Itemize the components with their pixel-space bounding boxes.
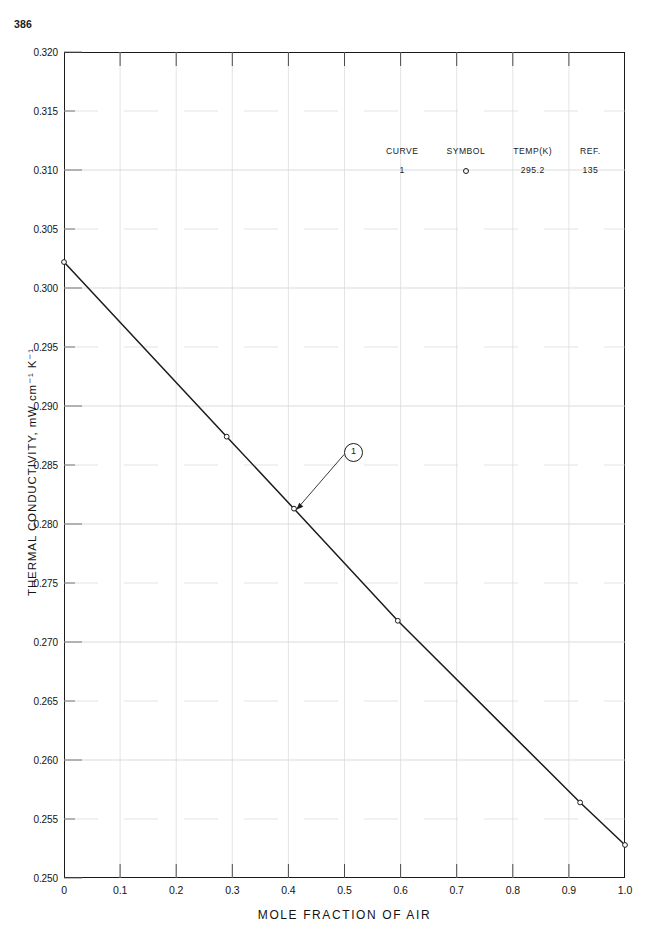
y-tick-label: 0.250 xyxy=(14,873,58,884)
x-tick-label: 0.7 xyxy=(437,884,477,896)
legend-header-symbol: SYMBOL xyxy=(432,146,499,165)
figure-thermal-conductivity: 0.2500.2550.2600.2650.2700.2750.2800.285… xyxy=(0,0,669,947)
legend-table: CURVE SYMBOL TEMP(K) REF. 1 295.2 135 xyxy=(372,146,615,175)
plot-area xyxy=(64,52,625,878)
y-axis-title: THERMAL CONDUCTIVITY, mW cm⁻¹ K⁻¹ xyxy=(25,272,39,672)
y-tick-label: 0.315 xyxy=(14,106,58,117)
legend-cell-ref: 135 xyxy=(566,165,615,175)
legend-header-curve: CURVE xyxy=(372,146,432,165)
y-tick-label: 0.320 xyxy=(14,47,58,58)
legend-header-temp: TEMP(K) xyxy=(499,146,566,165)
legend-header-ref: REF. xyxy=(566,146,615,165)
page-canvas: 386 0.2500.2550.2600.2650.2700.2750.2800… xyxy=(0,0,669,947)
x-axis-title: MOLE FRACTION OF AIR xyxy=(64,908,625,922)
x-tick-label: 0.9 xyxy=(549,884,589,896)
legend-cell-symbol xyxy=(432,165,499,175)
y-tick-label: 0.310 xyxy=(14,165,58,176)
data-marker xyxy=(395,618,400,623)
data-marker xyxy=(292,506,297,511)
annotation-leader-line xyxy=(296,454,344,509)
legend-row: 1 295.2 135 xyxy=(372,165,615,175)
x-tick-label: 0 xyxy=(44,884,84,896)
x-tick-label: 0.4 xyxy=(268,884,308,896)
x-tick-label: 0.2 xyxy=(156,884,196,896)
x-tick-label: 0.5 xyxy=(325,884,365,896)
x-tick-label: 0.6 xyxy=(381,884,421,896)
data-marker xyxy=(62,260,67,265)
curve-callout-1: 1 xyxy=(344,443,363,462)
legend-cell-curve: 1 xyxy=(372,165,432,175)
x-tick-label: 0.8 xyxy=(493,884,533,896)
x-axis-tick-labels: 00.10.20.30.40.50.60.70.80.91.0 xyxy=(64,884,625,900)
data-marker xyxy=(623,843,628,848)
x-tick-label: 0.3 xyxy=(212,884,252,896)
y-tick-label: 0.260 xyxy=(14,755,58,766)
x-tick-label: 1.0 xyxy=(605,884,645,896)
y-tick-label: 0.265 xyxy=(14,696,58,707)
data-marker xyxy=(578,800,583,805)
circle-open-icon xyxy=(463,168,469,174)
y-tick-label: 0.255 xyxy=(14,814,58,825)
y-tick-label: 0.305 xyxy=(14,224,58,235)
data-marker xyxy=(224,434,229,439)
x-tick-label: 0.1 xyxy=(100,884,140,896)
legend-header-row: CURVE SYMBOL TEMP(K) REF. xyxy=(372,146,615,165)
leader-line xyxy=(296,454,344,509)
legend-table-element: CURVE SYMBOL TEMP(K) REF. 1 295.2 135 xyxy=(372,146,615,175)
leader-arrowhead xyxy=(296,503,303,510)
legend-cell-temp: 295.2 xyxy=(499,165,566,175)
